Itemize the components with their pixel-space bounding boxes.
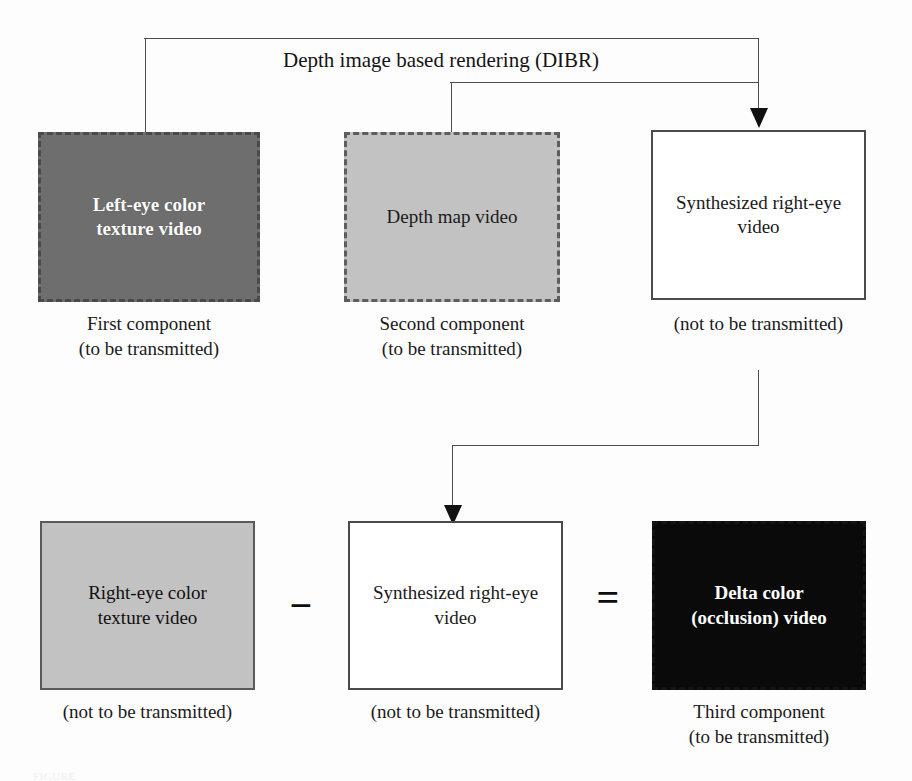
- caption-first-component: First component (to be transmitted): [38, 312, 260, 361]
- operator-minus: −: [281, 586, 321, 626]
- box-left-eye-color-texture-video-label: Left-eye color texture video: [93, 193, 205, 242]
- box-synthesized-right-eye-video-bottom-label: Synthesized right-eye video: [373, 581, 538, 630]
- box-synthesized-right-eye-video-top-label: Synthesized right-eye video: [676, 191, 841, 240]
- caption-third-component: Third component (to be transmitted): [644, 700, 874, 749]
- operator-equals: =: [588, 578, 628, 618]
- box-left-eye-color-texture-video[interactable]: Left-eye color texture video: [38, 132, 260, 302]
- connector-depthmap-vertical: [451, 82, 452, 132]
- box-synthesized-right-eye-video-top[interactable]: Synthesized right-eye video: [651, 130, 866, 300]
- connector-left-vertical: [145, 38, 146, 132]
- connector-top-horizontal: [144, 38, 759, 39]
- box-right-eye-color-texture-video-label: Right-eye color texture video: [88, 581, 207, 630]
- box-delta-color-occlusion-video-label: Delta color (occlusion) video: [691, 581, 827, 630]
- connector-synthesized-across: [452, 445, 759, 446]
- figure-canvas: Depth image based rendering (DIBR) Left-…: [0, 0, 912, 781]
- dibr-flow-label: Depth image based rendering (DIBR): [283, 48, 599, 73]
- arrowhead-to-synthesized-top: [750, 108, 768, 128]
- box-right-eye-color-texture-video[interactable]: Right-eye color texture video: [40, 521, 255, 690]
- connector-dibr-drop: [758, 38, 759, 112]
- figure-caption-fragment: FIGURE: [33, 770, 76, 781]
- connector-synthesized-down-right: [758, 370, 759, 446]
- box-delta-color-occlusion-video[interactable]: Delta color (occlusion) video: [652, 521, 866, 690]
- caption-second-component: Second component (to be transmitted): [339, 312, 565, 361]
- box-synthesized-right-eye-video-bottom[interactable]: Synthesized right-eye video: [348, 521, 563, 690]
- box-depth-map-video[interactable]: Depth map video: [344, 132, 560, 302]
- caption-synthesized-bottom-not-transmitted: (not to be transmitted): [338, 700, 573, 725]
- connector-depthmap-horizontal: [450, 82, 759, 83]
- connector-synthesized-down-left: [452, 445, 453, 511]
- caption-right-eye-not-transmitted: (not to be transmitted): [30, 700, 265, 725]
- box-depth-map-video-label: Depth map video: [387, 205, 518, 229]
- caption-synthesized-top-not-transmitted: (not to be transmitted): [641, 312, 876, 337]
